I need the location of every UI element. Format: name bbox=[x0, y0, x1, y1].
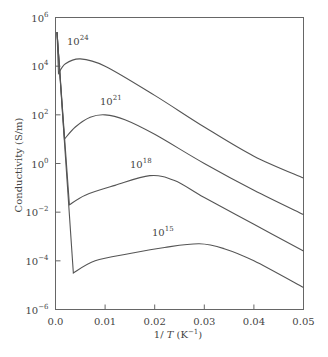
series-line-18 bbox=[57, 32, 304, 251]
series-label-24: 1024 bbox=[67, 34, 89, 47]
x-tick-label: 0.05 bbox=[292, 316, 314, 327]
y-tick-label: 100 bbox=[31, 157, 48, 170]
x-tick-label: 0.0 bbox=[48, 316, 64, 327]
series-label-21: 1021 bbox=[100, 94, 122, 107]
y-tick-label: 10−2 bbox=[25, 205, 48, 218]
y-tick-label: 10−6 bbox=[25, 303, 49, 316]
x-axis-title-main: 1/ bbox=[154, 329, 164, 340]
x-axis: 0.00.010.020.030.040.05 bbox=[48, 305, 315, 327]
y-tick-label: 102 bbox=[31, 108, 48, 121]
x-tick-label: 0.04 bbox=[243, 316, 265, 327]
data-series bbox=[57, 32, 304, 288]
y-axis-title: Conductivity (S/m) bbox=[13, 117, 24, 212]
x-axis-title: 1/ T (K−1) bbox=[154, 328, 202, 340]
y-tick-label: 10−4 bbox=[25, 254, 49, 267]
series-label-18: 1018 bbox=[130, 157, 152, 170]
series-line-15 bbox=[57, 32, 304, 288]
conductivity-chart: 0.00.010.020.030.040.05 10610410210010−2… bbox=[0, 0, 328, 357]
series-label-15: 1015 bbox=[152, 225, 174, 238]
y-tick-label: 104 bbox=[31, 59, 49, 72]
series-line-21 bbox=[57, 32, 304, 215]
series-line-24 bbox=[57, 32, 304, 178]
y-tick-label: 106 bbox=[31, 11, 49, 24]
x-tick-label: 0.02 bbox=[144, 316, 166, 327]
x-tick-label: 0.03 bbox=[193, 316, 215, 327]
x-tick-label: 0.01 bbox=[94, 316, 116, 327]
